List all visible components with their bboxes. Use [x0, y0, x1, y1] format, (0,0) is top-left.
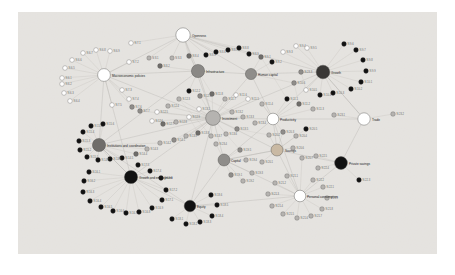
- satellite-node[interactable]: N 8.3: [170, 56, 182, 60]
- satellite-node[interactable]: N 16.3: [81, 190, 95, 195]
- node-circle[interactable]: [361, 58, 366, 63]
- node-circle[interactable]: [161, 122, 166, 127]
- satellite-node[interactable]: N 13.1: [197, 107, 211, 112]
- node-circle[interactable]: [187, 54, 192, 59]
- node-circle[interactable]: [214, 50, 219, 55]
- node-circle[interactable]: [267, 133, 272, 138]
- satellite-node[interactable]: N 18.6: [209, 193, 223, 198]
- node-circle[interactable]: [60, 76, 65, 81]
- node-circle[interactable]: [235, 127, 240, 132]
- satellite-node[interactable]: N 21.6: [295, 216, 309, 221]
- node-circle[interactable]: [210, 214, 215, 219]
- node-circle[interactable]: [148, 169, 153, 174]
- node-circle[interactable]: [241, 115, 246, 120]
- node-circle[interactable]: [136, 163, 141, 168]
- satellite-node[interactable]: N 17.1: [160, 198, 174, 203]
- node-circle[interactable]: [81, 190, 86, 195]
- satellite-node[interactable]: N 7.2: [127, 60, 139, 65]
- node-circle[interactable]: [253, 121, 258, 126]
- satellite-node[interactable]: N 16.7: [124, 211, 138, 216]
- node-circle[interactable]: [320, 207, 325, 212]
- satellite-node[interactable]: N 13.6: [224, 132, 238, 137]
- node-circle[interactable]: [88, 199, 93, 204]
- node-circle[interactable]: [158, 64, 163, 69]
- node-circle[interactable]: [223, 97, 228, 102]
- satellite-node[interactable]: N 19.4: [244, 158, 258, 163]
- node-circle[interactable]: [176, 28, 190, 42]
- node-circle[interactable]: [110, 103, 115, 108]
- node-circle[interactable]: [316, 65, 330, 79]
- node-circle[interactable]: [281, 50, 286, 55]
- node-circle[interactable]: [134, 152, 139, 157]
- satellite-node[interactable]: N 14.1: [172, 138, 186, 143]
- satellite-node[interactable]: N 16.8: [137, 210, 151, 215]
- satellite-node[interactable]: N 10.6: [292, 81, 306, 86]
- node-circle[interactable]: [160, 198, 165, 203]
- satellite-node[interactable]: N 6.6: [70, 58, 82, 63]
- satellite-node[interactable]: N 8.2: [158, 64, 171, 69]
- satellite-node[interactable]: N 18.5: [215, 203, 229, 208]
- satellite-node[interactable]: N 18.1: [170, 217, 184, 222]
- satellite-node[interactable]: N 12.5: [155, 110, 169, 115]
- satellite-node[interactable]: N 13.3: [241, 115, 255, 120]
- satellite-node[interactable]: N 13.8: [196, 131, 210, 136]
- satellite-node[interactable]: N 8.6: [214, 50, 227, 55]
- satellite-node[interactable]: N 9.4: [294, 44, 306, 49]
- node-circle[interactable]: [259, 55, 264, 60]
- node-circle[interactable]: [130, 105, 135, 110]
- satellite-node[interactable]: N 14.5: [120, 156, 134, 161]
- satellite-node[interactable]: N 10.3: [331, 91, 345, 96]
- satellite-node[interactable]: N 20.3: [281, 130, 295, 135]
- node-circle[interactable]: [187, 115, 192, 120]
- node-circle[interactable]: [297, 102, 302, 107]
- satellite-node[interactable]: N 21.8: [320, 207, 334, 212]
- node-circle[interactable]: [309, 214, 314, 219]
- node-circle[interactable]: [304, 127, 309, 132]
- satellite-node[interactable]: N 16.1: [87, 170, 101, 175]
- satellite-node[interactable]: N 13.2: [230, 110, 244, 115]
- node-circle[interactable]: [391, 112, 396, 117]
- node-circle[interactable]: [292, 81, 297, 86]
- satellite-node[interactable]: N 13.5: [235, 127, 249, 132]
- satellite-node[interactable]: N 17.2: [164, 188, 178, 193]
- satellite-node[interactable]: N 7.1: [129, 41, 141, 46]
- satellite-node[interactable]: N 11.7: [223, 97, 237, 102]
- node-circle[interactable]: [241, 179, 246, 184]
- node-circle[interactable]: [314, 154, 319, 159]
- satellite-node[interactable]: N 11.4: [260, 102, 274, 107]
- node-circle[interactable]: [198, 94, 203, 99]
- node-circle[interactable]: [300, 156, 305, 161]
- node-circle[interactable]: [266, 192, 271, 197]
- satellite-node[interactable]: N 12.9: [187, 115, 201, 120]
- node-circle[interactable]: [357, 178, 362, 183]
- node-circle[interactable]: [342, 42, 347, 47]
- node-circle[interactable]: [332, 113, 337, 118]
- node-circle[interactable]: [273, 181, 278, 186]
- node-circle[interactable]: [62, 91, 67, 96]
- satellite-node[interactable]: N 9.6: [342, 42, 355, 47]
- node-circle[interactable]: [245, 68, 256, 79]
- satellite-node[interactable]: N 6.1: [60, 76, 72, 81]
- node-circle[interactable]: [226, 48, 231, 53]
- satellite-node[interactable]: N 22.2: [311, 178, 325, 183]
- satellite-node[interactable]: N 11.5: [246, 97, 260, 102]
- node-circle[interactable]: [304, 88, 309, 93]
- node-circle[interactable]: [70, 58, 75, 63]
- satellite-node[interactable]: N 6.7: [81, 51, 93, 56]
- satellite-node[interactable]: N 16.6: [111, 209, 125, 214]
- node-circle[interactable]: [285, 174, 290, 179]
- satellite-node[interactable]: N 21.5: [281, 212, 295, 217]
- satellite-node[interactable]: N 9.2: [270, 60, 283, 65]
- satellite-node[interactable]: N 12.7: [161, 122, 175, 127]
- satellite-node[interactable]: N 22.4: [316, 166, 330, 171]
- satellite-node[interactable]: N 13.9: [184, 134, 198, 139]
- satellite-node[interactable]: N 17.4: [148, 169, 162, 174]
- satellite-node[interactable]: N 16.4: [88, 199, 102, 204]
- node-circle[interactable]: [285, 97, 290, 102]
- node-circle[interactable]: [209, 193, 214, 198]
- satellite-node[interactable]: N 9.8: [361, 58, 374, 63]
- node-circle[interactable]: [184, 200, 196, 212]
- satellite-node[interactable]: N 14.4: [134, 152, 148, 157]
- node-circle[interactable]: [87, 170, 92, 175]
- node-circle[interactable]: [78, 148, 83, 153]
